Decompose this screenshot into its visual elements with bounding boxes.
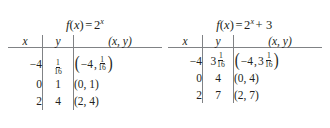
values-table-1: x y (x, y) −4 1 16 (−4, <box>8 35 162 110</box>
header-x-1: x <box>8 35 43 48</box>
cell-y-1-0: 1 16 <box>43 48 74 76</box>
cell-pair-2-2: (2, 7) <box>234 86 323 103</box>
cell-pair-1-0: (−4,116) <box>74 48 163 76</box>
header-pair-2: (x, y) <box>234 35 323 48</box>
mixed-number-2-0: 3116 <box>211 52 226 68</box>
header-y-1: y <box>43 35 74 48</box>
equals-sign-2: = <box>234 18 244 32</box>
cell-x-1-1: 0 <box>8 76 43 93</box>
table-header-1: x y (x, y) <box>8 35 162 48</box>
fraction-1-0: 1 16 <box>54 59 63 75</box>
table-row: 0 4 (0, 4) <box>168 69 322 86</box>
table-row: −4 3116 (−4,3116) <box>168 48 322 70</box>
pair-x-value: −4 <box>80 58 93 70</box>
cell-y-2-2: 7 <box>203 86 234 103</box>
cell-pair-2-0: (−4,3116) <box>234 48 323 70</box>
table-body-1: −4 1 16 (−4,116) 0 1 <box>8 48 162 110</box>
fraction-denominator: 16 <box>216 61 225 69</box>
function-title-1: f(x)=2x <box>66 18 104 33</box>
fraction-2-0: 116 <box>216 52 225 68</box>
cell-x-2-0: −4 <box>168 48 203 70</box>
title-extra-2: + 3 <box>254 18 274 32</box>
table-row: 2 4 (2, 4) <box>8 93 162 110</box>
function-tables-figure: f(x)=2x x y (x, y) −4 1 16 <box>0 0 330 128</box>
table-row: −4 1 16 (−4,116) <box>8 48 162 76</box>
fraction-denominator: 16 <box>264 61 273 69</box>
pair-whole: 3 <box>257 55 264 67</box>
exponent-1: x <box>100 17 104 26</box>
table-row: 0 1 (0, 1) <box>8 76 162 93</box>
header-row-2: x y (x, y) <box>168 35 322 48</box>
header-row-1: x y (x, y) <box>8 35 162 48</box>
table-body-2: −4 3116 (−4,3116) 0 4 (0, 4 <box>168 48 322 104</box>
function-title-2: f(x)=2x+ 3 <box>216 18 274 33</box>
paren-open-icon: ( <box>75 56 80 71</box>
paren-close-icon: ) <box>274 53 279 68</box>
fraction-denominator: 16 <box>98 64 107 72</box>
fraction-pair-2-0: 116 <box>264 52 273 68</box>
cell-y-1-1: 1 <box>43 76 74 93</box>
values-table-2: x y (x, y) −4 3116 (−4,3116) <box>168 35 322 103</box>
cell-pair-2-1: (0, 4) <box>234 69 323 86</box>
paren-close-icon: ) <box>107 56 112 71</box>
header-y-2: y <box>203 35 234 48</box>
pair-x-value: −4 <box>240 55 253 67</box>
cell-y-2-1: 4 <box>203 69 234 86</box>
ordered-pair-2-0: (−4,3116) <box>234 52 280 68</box>
cell-y-2-0: 3116 <box>203 48 234 70</box>
fraction-denominator: 16 <box>54 68 63 76</box>
cell-x-1-0: −4 <box>8 48 43 76</box>
ordered-pair-1-0: (−4,116) <box>74 56 113 72</box>
cell-x-1-2: 2 <box>8 93 43 110</box>
function-table-block-1: f(x)=2x x y (x, y) −4 1 16 <box>6 18 164 110</box>
table-header-2: x y (x, y) <box>168 35 322 48</box>
cell-pair-1-1: (0, 1) <box>74 76 163 93</box>
cell-y-1-2: 4 <box>43 93 74 110</box>
header-x-2: x <box>168 35 203 48</box>
cell-pair-1-2: (2, 4) <box>74 93 163 110</box>
equals-sign-1: = <box>84 18 94 32</box>
cell-x-2-1: 0 <box>168 69 203 86</box>
paren-open-icon: ( <box>235 53 240 68</box>
fraction-pair-1-0: 116 <box>98 56 107 72</box>
mixed-whole: 3 <box>211 55 217 67</box>
table-row: 2 7 (2, 7) <box>168 86 322 103</box>
cell-x-2-2: 2 <box>168 86 203 103</box>
function-table-block-2: f(x)=2x+ 3 x y (x, y) −4 3116 <box>166 18 324 103</box>
header-pair-1: (x, y) <box>74 35 163 48</box>
